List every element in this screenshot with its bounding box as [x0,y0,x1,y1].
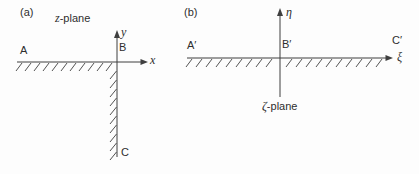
conformal-mapping-figure: (a) z-plane y A B x C (b) η A′ B′ C′ ξ ζ… [0,0,419,174]
panel-b-lines [186,8,393,97]
point-c-prime-label: C′ [392,35,402,46]
xi-axis-arrowhead [386,55,394,61]
diagram-canvas [0,0,419,174]
point-c-label: C [121,147,129,158]
x-axis-label: x [150,54,155,66]
eta-axis-arrowhead [277,8,283,16]
x-axis-arrowhead [141,59,149,65]
zeta-plane-label: ζ-plane [262,100,297,112]
y-axis-label: y [121,26,126,38]
point-a-prime-label: A′ [187,40,196,51]
point-b-label: B [119,42,126,53]
y-axis-arrowhead [114,30,120,38]
panel-a-lines [16,30,148,160]
xi-axis-label: ξ [397,51,402,63]
z-plane-label: z-plane [55,12,90,24]
z-plane-suffix: -plane [60,12,91,24]
hatching-a-horizontal [16,63,112,71]
eta-axis-label: η [286,6,292,18]
panel-b-arrowheads [277,8,393,61]
hatching-b [186,59,382,67]
point-a-label: A [20,45,27,56]
point-b-prime-label: B′ [282,39,291,50]
hatching-a-vertical [110,71,117,160]
panel-a-tag: (a) [20,7,33,18]
zeta-plane-suffix: -plane [267,100,298,112]
panel-b-tag: (b) [184,7,197,18]
